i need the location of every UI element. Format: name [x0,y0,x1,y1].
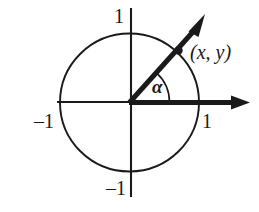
x-axis-arrowhead [231,96,250,110]
unit-circle-figure: 1 –1 1 –1 (x, y) α [0,0,259,212]
angle-alpha-label: α [152,77,163,96]
point-coordinates-label: (x, y) [190,42,231,62]
x-axis-right-tick-label: 1 [202,111,212,131]
x-axis-left-tick-label: –1 [34,111,54,131]
y-axis-bottom-tick-label: –1 [106,178,126,198]
y-axis-top-tick-label: 1 [114,6,124,26]
figure-canvas [0,0,259,212]
intersection-point-dot [174,46,182,54]
